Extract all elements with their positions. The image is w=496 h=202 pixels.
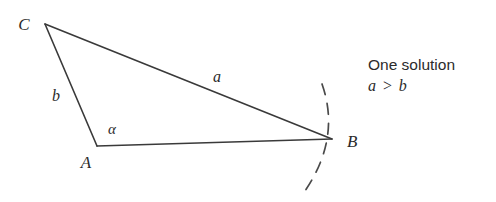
- annotation-operand-left: a: [368, 77, 376, 94]
- triangle-diagram: C A B a b α One solution a>b: [0, 0, 496, 202]
- side-label-a: a: [213, 68, 221, 85]
- triangle-edge-a: [45, 24, 332, 139]
- vertex-label-c: C: [18, 15, 30, 34]
- side-label-b: b: [52, 87, 60, 104]
- annotation-operator: >: [382, 77, 393, 94]
- angle-label-alpha: α: [108, 121, 117, 137]
- annotation-line-two: a>b: [368, 77, 407, 94]
- annotation-line-one: One solution: [368, 56, 455, 73]
- vertex-label-a: A: [80, 153, 92, 172]
- vertex-label-b: B: [347, 132, 358, 151]
- triangle-edge-base: [97, 139, 332, 146]
- dashed-arc: [305, 84, 329, 191]
- annotation-operand-right: b: [399, 77, 407, 94]
